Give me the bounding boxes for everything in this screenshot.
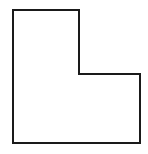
diagram-svg	[0, 0, 148, 154]
diagram-canvas	[0, 0, 148, 154]
l-shape-polygon	[13, 10, 140, 143]
